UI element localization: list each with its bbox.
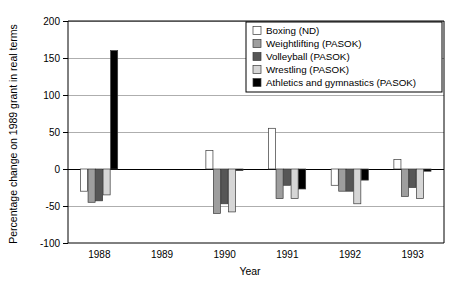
y-tick-label: 50 xyxy=(49,127,61,138)
y-tick-label: -100 xyxy=(40,238,60,249)
bar xyxy=(291,169,298,199)
bar-chart: 200150100500-50-100 19881989199019911992… xyxy=(0,0,455,282)
bar xyxy=(81,169,88,191)
x-axis-title: Year xyxy=(239,265,261,277)
x-axis-ticks: 198819891990199119921993 xyxy=(88,243,424,260)
legend-swatch xyxy=(253,27,261,35)
legend-label: Weightlifting (PASOK) xyxy=(266,38,361,49)
legend-label: Athletics and gymnastics (PASOK) xyxy=(266,77,416,88)
legend-label: Boxing (ND) xyxy=(266,25,319,36)
legend-swatch xyxy=(253,79,261,87)
legend-swatch xyxy=(253,66,261,74)
bar xyxy=(401,169,408,196)
bar xyxy=(213,169,220,213)
legend-swatch xyxy=(253,53,261,61)
bar xyxy=(354,169,361,204)
bar xyxy=(206,151,213,170)
bar xyxy=(346,169,353,191)
bar xyxy=(96,169,103,201)
bar xyxy=(394,159,401,169)
bar xyxy=(236,169,243,170)
x-tick-label: 1993 xyxy=(402,249,425,260)
bar xyxy=(269,128,276,169)
y-tick-label: 150 xyxy=(43,53,60,64)
y-axis-title: Percentage change on 1989 grant in real … xyxy=(7,24,19,243)
legend: Boxing (ND)Weightlifting (PASOK)Volleyba… xyxy=(246,22,442,92)
x-tick-label: 1989 xyxy=(151,249,174,260)
y-axis-ticks: 200150100500-50-100 xyxy=(40,16,68,249)
bar xyxy=(331,169,338,185)
bar xyxy=(424,169,431,171)
bar xyxy=(299,169,306,189)
bar xyxy=(103,169,110,195)
bar xyxy=(416,169,423,199)
x-tick-label: 1992 xyxy=(339,249,362,260)
legend-label: Volleyball (PASOK) xyxy=(266,51,350,62)
bar xyxy=(228,169,235,212)
bar xyxy=(88,169,95,202)
y-tick-label: 100 xyxy=(43,90,60,101)
bar xyxy=(276,169,283,199)
bar xyxy=(111,51,118,169)
bar xyxy=(284,169,291,185)
legend-label: Wrestling (PASOK) xyxy=(266,64,349,75)
x-tick-label: 1991 xyxy=(276,249,299,260)
legend-swatch xyxy=(253,40,261,48)
x-tick-label: 1988 xyxy=(88,249,111,260)
y-tick-label: 200 xyxy=(43,16,60,27)
y-tick-label: 0 xyxy=(54,164,60,175)
bar xyxy=(361,169,368,180)
y-tick-label: -50 xyxy=(46,201,61,212)
chart-container: 200150100500-50-100 19881989199019911992… xyxy=(0,0,455,282)
bar xyxy=(339,169,346,191)
bar xyxy=(221,169,228,204)
x-tick-label: 1990 xyxy=(214,249,237,260)
bar xyxy=(409,169,416,188)
